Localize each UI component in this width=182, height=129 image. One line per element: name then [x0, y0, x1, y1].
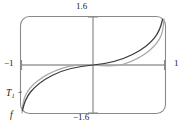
y-max-label: 1.6 [76, 2, 87, 11]
curve-label-T1-subscript: 1 [12, 92, 15, 99]
y-min-label: −1.6 [73, 113, 89, 122]
curve-label-T1: T1 [6, 89, 15, 99]
curve-label-T1-base: T [6, 88, 11, 98]
curve-label-f: f [10, 111, 13, 121]
figure-container: 1.6 −1.6 −1 1 T1 f [0, 0, 182, 129]
x-min-label: −1 [4, 59, 14, 68]
x-max-label: 1 [174, 59, 179, 68]
plot-svg [0, 0, 182, 129]
T1-leader [19, 92, 23, 93]
